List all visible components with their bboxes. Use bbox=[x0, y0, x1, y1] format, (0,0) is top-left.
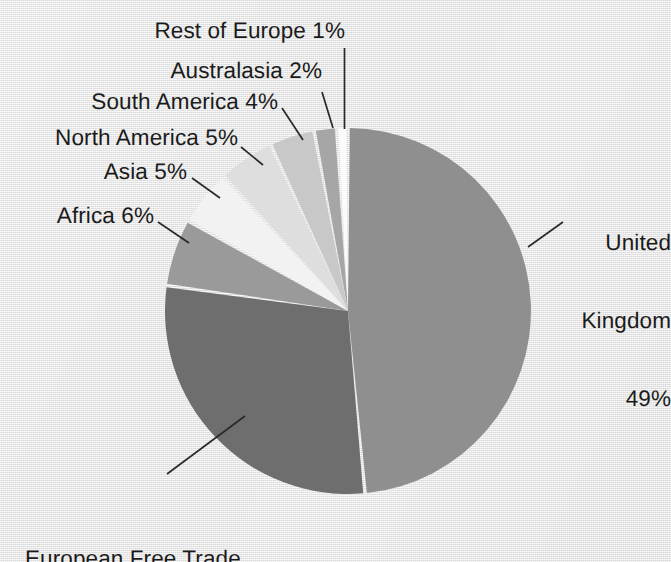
slice-label-africa: Africa 6% bbox=[0, 203, 154, 229]
slice-label-united-kingdom-line1: United bbox=[476, 230, 671, 256]
slice-label-rest-of-europe: Rest of Europe 1% bbox=[0, 18, 345, 44]
slice-label-asia: Asia 5% bbox=[0, 159, 187, 185]
slice-label-north-america: North America 5% bbox=[0, 125, 238, 151]
slice-label-australasia: Australasia 2% bbox=[0, 58, 322, 84]
pie-slice-european-free-trade-association-efta[interactable] bbox=[165, 287, 363, 494]
slice-label-efta: European Free Trade Association (EFTA) 2… bbox=[25, 486, 365, 562]
slice-label-united-kingdom: United Kingdom 49% bbox=[476, 178, 671, 464]
slice-label-south-america: South America 4% bbox=[0, 89, 278, 115]
slice-label-united-kingdom-line2: Kingdom bbox=[476, 308, 671, 334]
pie-chart-figure: Rest of Europe 1% Australasia 2% South A… bbox=[0, 0, 671, 562]
leader-line-south-america bbox=[282, 108, 303, 140]
slice-label-united-kingdom-line3: 49% bbox=[476, 386, 671, 412]
leader-line-australasia bbox=[322, 92, 333, 128]
slice-label-efta-line1: European Free Trade bbox=[25, 544, 365, 562]
